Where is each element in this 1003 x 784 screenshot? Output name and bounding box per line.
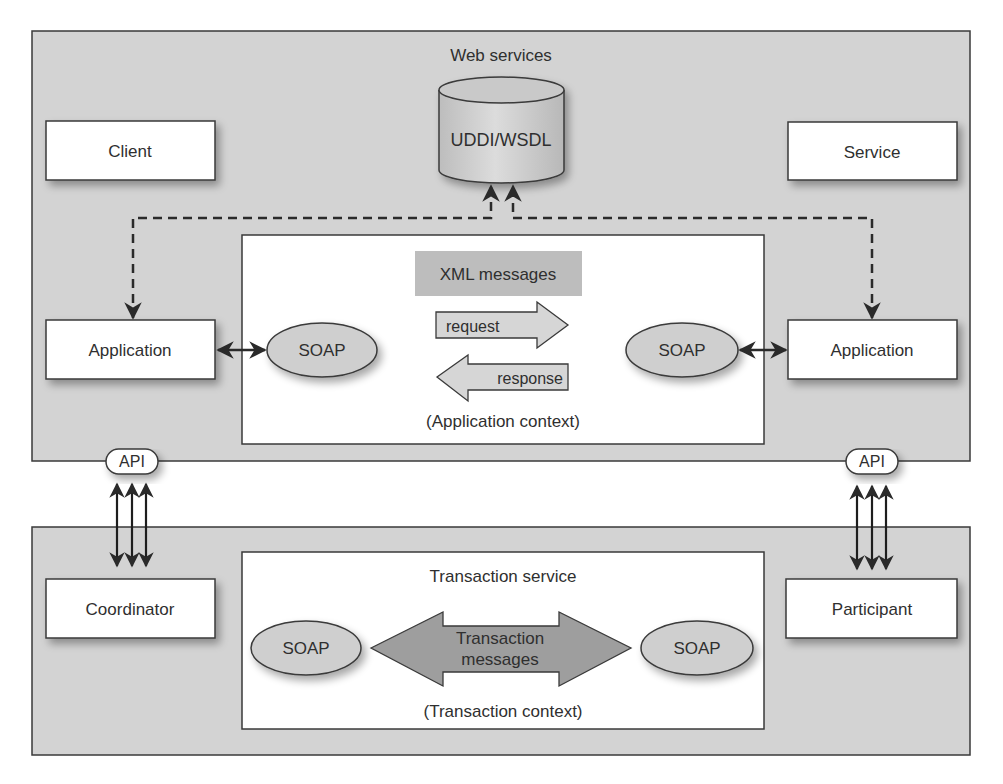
transaction-context-caption: (Transaction context) — [423, 702, 582, 721]
service-label: Service — [844, 143, 901, 162]
transaction-messages-line2: messages — [461, 650, 538, 669]
xml-messages-label: XML messages — [440, 265, 557, 284]
registry-label: UDDI/WSDL — [450, 130, 551, 150]
coordinator-label: Coordinator — [86, 600, 175, 619]
soap-label-left-bottom: SOAP — [282, 639, 329, 658]
response-label: response — [497, 370, 563, 387]
transaction-messages-line1: Transaction — [456, 629, 544, 648]
left-api-label: API — [119, 453, 145, 470]
transaction-service-title: Transaction service — [430, 567, 577, 586]
request-label: request — [446, 318, 500, 335]
right-application-label: Application — [830, 341, 913, 360]
web-services-title: Web services — [450, 46, 552, 65]
soap-label-right-bottom: SOAP — [673, 639, 720, 658]
left-application-label: Application — [88, 341, 171, 360]
application-context-caption: (Application context) — [426, 412, 580, 431]
web-services-transaction-diagram: Web services UDDI/WSDL Client Service XM… — [0, 0, 1003, 784]
soap-label-left-top: SOAP — [298, 341, 345, 360]
client-label: Client — [108, 142, 152, 161]
participant-label: Participant — [832, 600, 913, 619]
right-api-label: API — [859, 453, 885, 470]
soap-label-right-top: SOAP — [658, 341, 705, 360]
